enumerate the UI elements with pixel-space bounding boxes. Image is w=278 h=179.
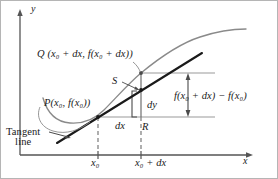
- point-P: [96, 115, 100, 119]
- x-axis-label: x: [243, 156, 248, 166]
- point-Q: [139, 71, 143, 75]
- x-tick-label-x0: x₀: [91, 158, 100, 169]
- point-label-Q-text: Q (x₀ + dx, f(x₀ + dx)): [37, 48, 133, 59]
- point-label-R: R: [142, 122, 149, 133]
- dx-label: dx: [115, 121, 125, 132]
- point-label-Q: Q (x₀ + dx, f(x₀ + dx)): [37, 49, 133, 60]
- point-label-P: P(x₀, f(x₀)): [44, 98, 90, 109]
- differential-figure: y x Q (x₀ + dx, f(x₀ + dx)) P(x₀, f(x₀))…: [0, 0, 278, 179]
- dy-label: dy: [147, 100, 157, 111]
- point-S: [139, 88, 143, 92]
- y-axis-label: y: [31, 4, 36, 14]
- tangent-line-callout: Tangent line: [6, 127, 40, 147]
- tangent-callout-line2: line: [6, 137, 40, 148]
- delta-f-label: f(x₀ + dx) − f(x₀): [174, 91, 247, 102]
- x-tick-label-x0-plus-dx: x₀ + dx: [135, 158, 166, 169]
- point-label-S: S: [112, 76, 117, 87]
- point-label-P-text: P(x₀, f(x₀)): [44, 97, 90, 108]
